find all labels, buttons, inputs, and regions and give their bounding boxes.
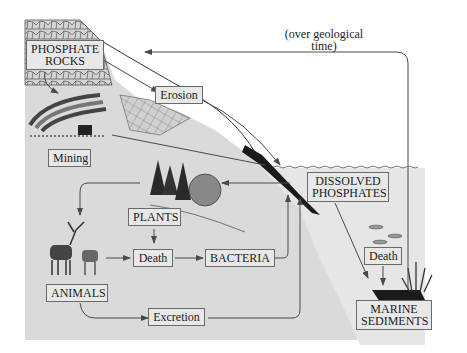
label-dissolved-line2: PHOSPHATES xyxy=(312,187,384,199)
label-phosphate-rocks: PHOSPHATE ROCKS xyxy=(26,40,104,70)
label-geological-line2: time) xyxy=(264,40,384,52)
label-phosphate-rocks-line2: ROCKS xyxy=(31,55,99,67)
label-marine-sediments: MARINE SEDIMENTS xyxy=(356,300,432,330)
label-animals: ANIMALS xyxy=(46,284,108,302)
label-excretion: Excretion xyxy=(148,308,205,326)
label-death-marine: Death xyxy=(364,247,402,265)
phosphorus-cycle-diagram: PHOSPHATE ROCKS Erosion Mining (over geo… xyxy=(0,0,467,353)
label-mining: Mining xyxy=(48,149,91,167)
label-death-land: Death xyxy=(133,249,173,267)
label-marine-line2: SEDIMENTS xyxy=(361,315,427,327)
label-bacteria: BACTERIA xyxy=(205,249,275,267)
label-over-geological-time: (over geological time) xyxy=(264,28,384,52)
label-dissolved-phosphates: DISSOLVED PHOSPHATES xyxy=(307,172,389,202)
water-surface xyxy=(262,166,418,168)
label-erosion: Erosion xyxy=(155,86,203,104)
label-plants: PLANTS xyxy=(128,208,181,226)
